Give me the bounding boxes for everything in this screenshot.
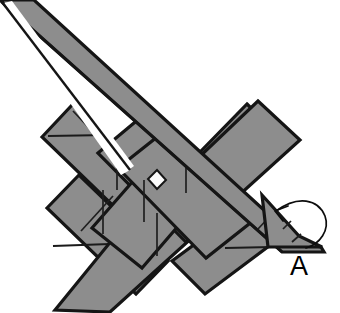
callout-label-a: A <box>290 251 308 281</box>
figure-root: A <box>0 0 340 313</box>
weave-diagram: A <box>0 0 340 313</box>
